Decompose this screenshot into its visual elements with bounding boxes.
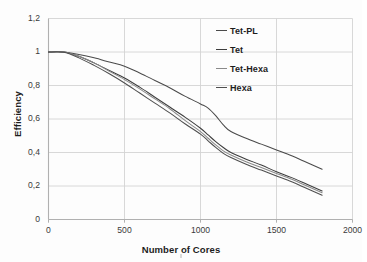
x-tick-label: 0 — [29, 225, 69, 235]
legend-swatch-icon — [216, 49, 227, 50]
legend-label: Tet-PL — [230, 26, 258, 36]
legend-label: Tet — [230, 45, 243, 55]
legend-swatch-icon — [216, 30, 227, 31]
x-tick-label: 1000 — [181, 225, 221, 235]
x-tick-label: 1500 — [257, 225, 297, 235]
legend-item-tet-pl: Tet-PL — [216, 21, 316, 40]
x-tick-label: 500 — [105, 225, 145, 235]
scan-artifact — [180, 254, 182, 258]
y-tick-label: 0,2 — [6, 180, 40, 190]
y-tick-label: 0 — [6, 214, 40, 224]
legend-swatch-icon — [216, 87, 227, 88]
legend-item-tet-hexa: Tet-Hexa — [216, 59, 316, 78]
legend-item-tet: Tet — [216, 40, 316, 59]
chart-legend: Tet-PLTetTet-HexaHexa — [216, 21, 316, 97]
y-axis-title: Efficiency — [7, 54, 25, 174]
legend-label: Tet-Hexa — [230, 64, 268, 74]
legend-swatch-icon — [216, 68, 227, 69]
y-axis-title-text: Efficiency — [12, 91, 23, 137]
y-tick-label: 1,2 — [6, 13, 40, 23]
legend-item-hexa: Hexa — [216, 78, 316, 97]
x-tick-label: 2000 — [333, 225, 367, 235]
legend-label: Hexa — [230, 83, 252, 93]
